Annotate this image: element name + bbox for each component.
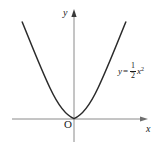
equation-equals-sign: =: [123, 67, 128, 76]
fraction-numerator: 1: [130, 62, 136, 70]
y-axis-label: y: [63, 8, 67, 18]
equation-annotation: y = 1 2 x 2: [118, 62, 144, 80]
equation-lhs: y: [118, 67, 122, 76]
x-axis-label: x: [146, 124, 150, 134]
parabola-figure: y x O y = 1 2 x 2: [0, 0, 161, 149]
equation-fraction: 1 2: [130, 62, 136, 80]
y-axis-arrowhead: [71, 9, 76, 17]
x-axis-arrowhead: [140, 116, 148, 121]
equation-exponent: 2: [141, 66, 144, 72]
origin-label: O: [64, 119, 72, 130]
fraction-denominator: 2: [130, 72, 136, 80]
